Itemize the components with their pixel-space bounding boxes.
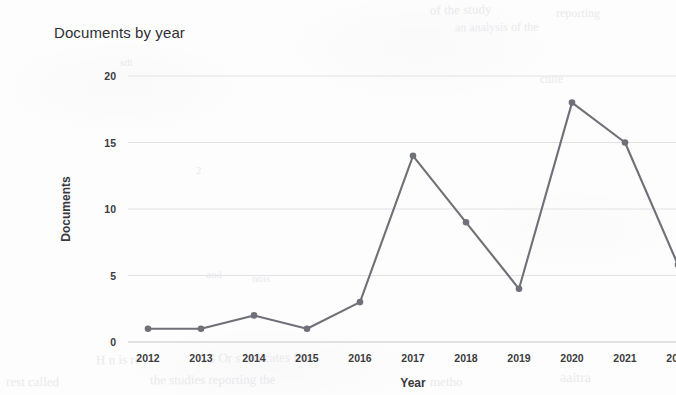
documents-by-year-chart: Documents by year 05101520 2012201320142… bbox=[40, 16, 676, 395]
data-point-marker bbox=[304, 325, 311, 332]
x-tick-label: 2015 bbox=[295, 352, 319, 364]
x-tick-label: 2022 bbox=[666, 352, 676, 364]
y-tick-label: 10 bbox=[104, 203, 116, 215]
data-point-marker bbox=[198, 325, 205, 332]
gridlines-group bbox=[128, 76, 676, 342]
x-tick-label: 2012 bbox=[136, 352, 160, 364]
x-tick-label: 2016 bbox=[348, 352, 372, 364]
data-point-marker bbox=[622, 139, 629, 146]
y-tick-label: 0 bbox=[110, 336, 116, 348]
data-point-marker bbox=[251, 312, 258, 319]
x-tick-label: 2021 bbox=[613, 352, 637, 364]
data-point-marker bbox=[410, 153, 417, 160]
data-point-marker bbox=[463, 219, 470, 226]
x-tick-label: 2013 bbox=[189, 352, 213, 364]
series-polyline bbox=[148, 103, 676, 329]
y-tick-label: 20 bbox=[104, 70, 116, 82]
x-tick-label: 2017 bbox=[401, 352, 425, 364]
x-tick-label: 2014 bbox=[242, 352, 266, 364]
data-point-marker bbox=[569, 99, 576, 106]
data-point-marker bbox=[145, 325, 152, 332]
y-tick-label: 5 bbox=[110, 270, 116, 282]
data-series-documents bbox=[145, 99, 676, 332]
x-axis-title: Year bbox=[400, 376, 426, 390]
y-tick-label: 15 bbox=[104, 137, 116, 149]
y-axis-title: Documents bbox=[59, 176, 73, 242]
y-tick-labels: 05101520 bbox=[104, 70, 116, 348]
x-tick-label: 2018 bbox=[454, 352, 478, 364]
data-point-marker bbox=[516, 286, 523, 293]
x-tick-labels: 2012201320142015201620172018201920202021… bbox=[136, 352, 676, 364]
data-point-marker bbox=[357, 299, 364, 306]
x-tick-label: 2019 bbox=[507, 352, 531, 364]
chart-plot-area: 05101520 2012201320142015201620172018201… bbox=[40, 16, 676, 395]
x-tick-label: 2020 bbox=[560, 352, 584, 364]
